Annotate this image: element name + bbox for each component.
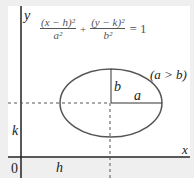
fraction-x: (x − h)² a²	[40, 16, 76, 41]
b-label: b	[114, 80, 121, 94]
term2-numerator: (y − k)²	[90, 16, 125, 29]
term2-denominator: b²	[103, 29, 112, 41]
ellipse-equation: (x − h)² a² + (y − k)² b² = 1	[40, 16, 147, 41]
term1-numerator: (x − h)²	[40, 16, 76, 29]
y-axis-label: y	[24, 9, 30, 23]
h-label: h	[56, 161, 63, 175]
origin-label: 0	[11, 162, 18, 176]
fraction-y: (y − k)² b²	[90, 16, 125, 41]
x-axis-label: x	[182, 143, 188, 156]
plus-sign: +	[80, 23, 86, 35]
equation-rhs: = 1	[129, 21, 146, 37]
term1-denominator: a²	[54, 29, 63, 41]
a-label: a	[134, 89, 141, 103]
condition-label: (a > b)	[150, 68, 187, 81]
k-label: k	[12, 124, 18, 138]
